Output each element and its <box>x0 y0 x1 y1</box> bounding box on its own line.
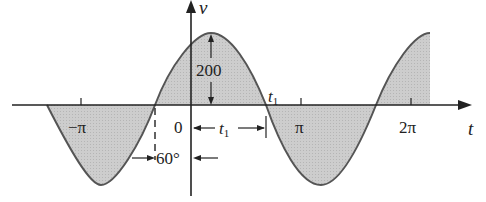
origin-label: 0 <box>174 119 183 136</box>
t1-crossing-label: t1 <box>268 88 278 105</box>
t1-span-label: t1 <box>219 120 229 137</box>
diagram-svg <box>0 0 486 202</box>
v-axis-label: v <box>199 0 207 17</box>
tick-label-pi: π <box>295 119 304 136</box>
phase-right-arrowhead-icon <box>193 155 201 161</box>
x-axis-arrow-icon <box>458 100 472 110</box>
phase-angle-label: 60° <box>156 150 180 167</box>
t1-right-arrowhead-icon <box>257 125 265 131</box>
tick-label-2pi: 2π <box>399 119 416 136</box>
sine-fill <box>47 33 430 185</box>
y-axis-arrow-icon <box>186 0 196 13</box>
sine-wave-diagram: v t 0 −π π 2π 200 t1 t1 60° <box>0 0 486 202</box>
t1-left-arrowhead-icon <box>193 125 201 131</box>
amplitude-label: 200 <box>196 62 222 79</box>
phase-left-arrowhead-icon <box>147 155 155 161</box>
t1-crossing-subscript: 1 <box>273 95 279 107</box>
tick-label-neg-pi: −π <box>68 119 86 136</box>
t1-span-subscript: 1 <box>224 127 230 139</box>
t-axis-label: t <box>468 119 473 138</box>
